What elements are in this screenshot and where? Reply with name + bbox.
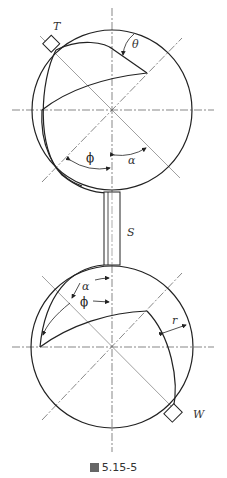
label-t: T <box>53 20 62 33</box>
label-s: S <box>127 226 135 239</box>
label-alpha: α <box>128 154 136 167</box>
top-lens-lower <box>42 73 147 110</box>
top-view: T θ ϕ α <box>12 8 214 200</box>
label-phi-bottom: ϕ <box>80 295 88 309</box>
label-theta: θ <box>132 38 139 51</box>
bottom-lens-right <box>147 311 175 410</box>
label-w: W <box>193 408 206 421</box>
diagram: T θ ϕ α S α <box>0 0 227 478</box>
bottom-phi-arrow-left <box>43 303 70 335</box>
top-rim <box>43 50 108 193</box>
caption-number: 5.15-5 <box>102 461 137 474</box>
bottom-centerlines <box>12 265 214 452</box>
stem: S <box>104 192 135 265</box>
figure-caption: 5.15-5 <box>0 461 227 474</box>
caption-prefix-glyph <box>90 463 99 472</box>
bottom-alpha-arrow-left <box>72 283 80 298</box>
bottom-lens-upper <box>40 311 147 347</box>
label-phi: ϕ <box>86 151 94 165</box>
bottom-phi-arrow <box>93 301 109 302</box>
label-r: r <box>172 314 178 327</box>
bottom-alpha-arrow <box>95 278 109 280</box>
bottom-diag <box>42 276 175 410</box>
bottom-view: α ϕ r W <box>12 265 214 452</box>
top-centerlines <box>12 8 214 200</box>
label-alpha-bottom: α <box>82 280 90 293</box>
